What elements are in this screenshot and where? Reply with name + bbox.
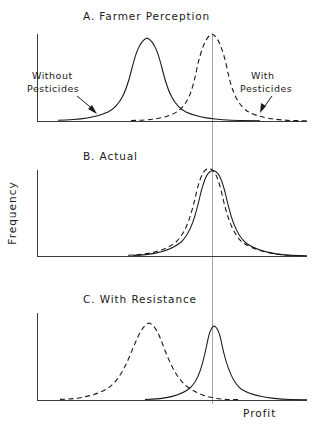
annotation-with-pesticides-line1: With bbox=[251, 70, 275, 81]
panel-a-title: A. Farmer Perception bbox=[83, 10, 210, 22]
figure-background bbox=[0, 0, 314, 427]
y-axis-label-frequency: Frequency bbox=[6, 181, 18, 244]
panel-b-title: B. Actual bbox=[83, 150, 138, 162]
x-axis-label-profit: Profit bbox=[243, 407, 276, 419]
annotation-without-pesticides-line1: Without bbox=[32, 70, 73, 81]
annotation-with-pesticides-line2: Pesticides bbox=[240, 83, 292, 94]
panel-c-title: C. With Resistance bbox=[83, 293, 197, 305]
figure-canvas: A. Farmer Perception Without Pesticides … bbox=[0, 0, 314, 427]
annotation-without-pesticides-line2: Pesticides bbox=[27, 83, 79, 94]
